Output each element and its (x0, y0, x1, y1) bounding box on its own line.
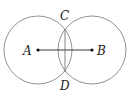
point-b (90, 48, 93, 51)
label-c: C (60, 9, 69, 23)
label-b: B (96, 44, 106, 58)
point-a (36, 48, 39, 51)
label-a: A (22, 44, 32, 58)
label-d: D (59, 79, 70, 93)
geometry-diagram: A B C D (0, 0, 135, 96)
